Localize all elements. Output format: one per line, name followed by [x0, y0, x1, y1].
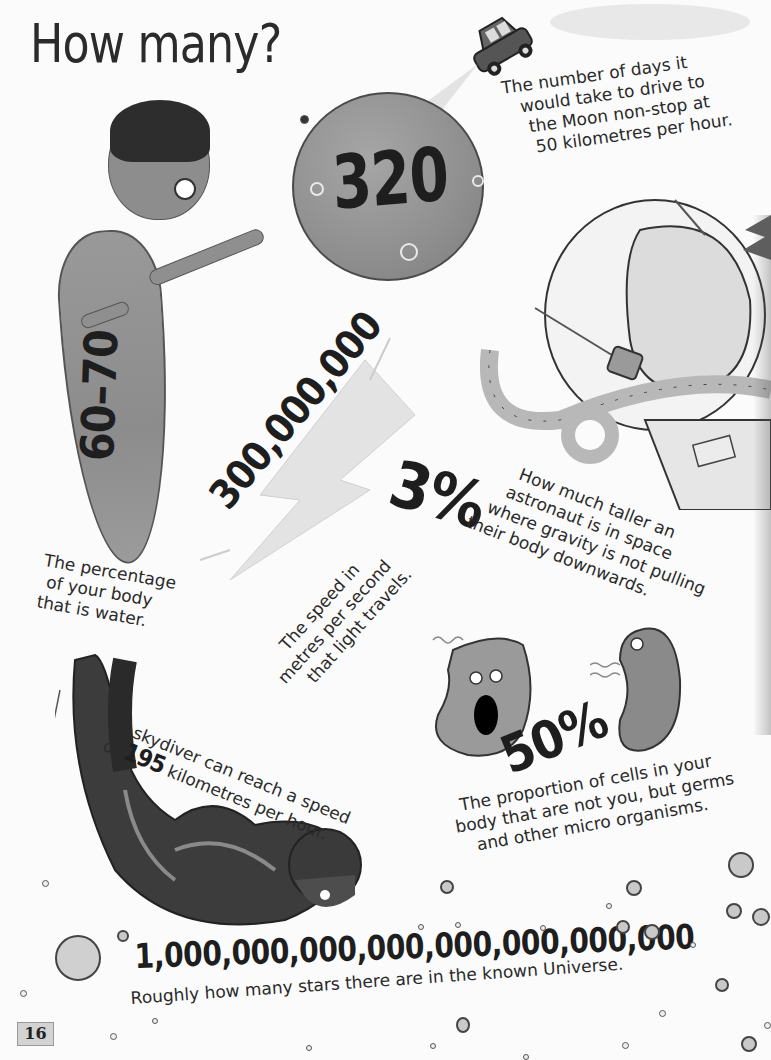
dot-icon — [659, 1010, 666, 1017]
crater-icon — [472, 175, 484, 187]
bubble-icon — [741, 1036, 757, 1052]
page-title: How many? — [30, 12, 281, 75]
dot-icon — [764, 1022, 771, 1029]
page-gutter-shadow — [753, 215, 771, 735]
person-hair — [110, 100, 210, 162]
bubble-icon — [117, 930, 129, 942]
person-arm — [147, 227, 266, 288]
bubble-icon — [728, 852, 754, 878]
bubble-icon — [440, 880, 454, 894]
dot-icon — [622, 1042, 629, 1049]
dot-icon — [110, 1033, 117, 1040]
page-number: 16 — [17, 1022, 54, 1046]
astronaut-helmet-icon — [480, 190, 771, 510]
bubble-icon — [616, 920, 630, 934]
dot-icon — [690, 942, 696, 948]
dot-icon — [20, 990, 27, 997]
dot-icon — [523, 1054, 529, 1060]
bubble-icon — [715, 978, 729, 992]
body-water-caption: The percentage of your body that is wate… — [35, 550, 178, 635]
dot-icon — [430, 1043, 436, 1049]
dot-icon — [418, 924, 424, 930]
bubble-icon — [55, 935, 101, 981]
bubble-icon — [456, 1017, 470, 1033]
bubble-icon — [644, 924, 660, 940]
crater-icon — [400, 243, 418, 261]
dot-icon — [300, 115, 309, 124]
dot-icon — [455, 922, 461, 928]
dot-icon — [42, 880, 49, 887]
dot-icon — [540, 925, 546, 931]
moon-number: 320 — [330, 131, 450, 226]
plant-leaf-icon — [735, 215, 771, 275]
bubble-icon — [726, 903, 742, 919]
bubble-icon — [752, 908, 770, 926]
crater-icon — [310, 182, 324, 196]
dot-icon — [306, 1045, 312, 1051]
dot-icon — [606, 903, 612, 909]
bubble-icon — [626, 880, 642, 896]
lightning-bolt-icon — [190, 320, 420, 580]
eye-icon — [174, 178, 196, 200]
exhaust-cloud-icon — [540, 0, 760, 60]
body-water-number: 60–70 — [70, 329, 129, 462]
dot-icon — [152, 1018, 158, 1024]
